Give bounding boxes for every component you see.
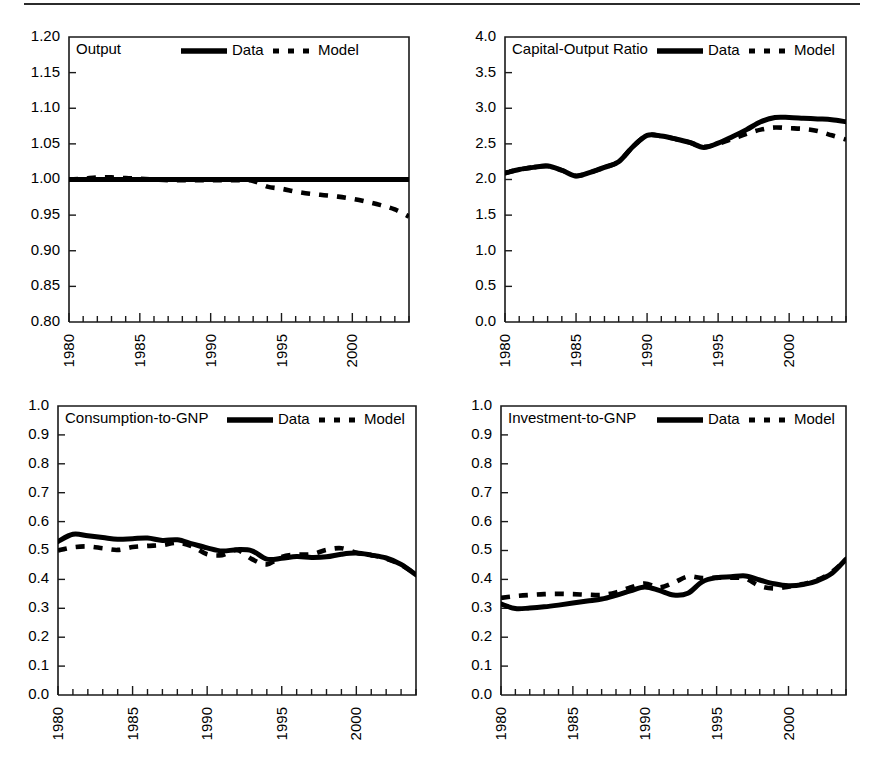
y-tick-label: 0.2 — [471, 627, 492, 644]
series-line-model — [501, 560, 846, 598]
y-tick-label: 0.2 — [28, 627, 49, 644]
x-tick-label: 2000 — [780, 707, 797, 740]
y-tick-label: 1.0 — [471, 396, 492, 413]
legend-label-data: Data — [708, 41, 740, 58]
x-tick-label: 1995 — [709, 334, 726, 367]
panel-title: Consumption-to-GNP — [65, 409, 208, 426]
y-tick-label: 0.3 — [28, 598, 49, 615]
x-tick-label: 1980 — [496, 334, 513, 367]
y-tick-label: 1.20 — [31, 27, 60, 44]
y-tick-label: 0.4 — [471, 569, 492, 586]
y-tick-label: 0.1 — [28, 656, 49, 673]
series-line-model — [69, 177, 409, 216]
x-tick-label: 1985 — [567, 334, 584, 367]
y-tick-label: 0.3 — [471, 598, 492, 615]
y-tick-label: 0.80 — [31, 312, 60, 329]
plot-output: 0.800.850.900.951.001.051.101.151.201980… — [0, 22, 440, 382]
panel-title: Output — [76, 40, 122, 57]
y-tick-label: 4.0 — [475, 27, 496, 44]
y-tick-label: 0.90 — [31, 241, 60, 258]
series-group — [58, 534, 416, 575]
series-group — [505, 117, 846, 176]
y-tick-label: 1.5 — [475, 205, 496, 222]
series-line-data — [501, 559, 846, 609]
panel-output: 0.800.850.900.951.001.051.101.151.201980… — [0, 22, 440, 382]
y-tick-label: 0.85 — [31, 276, 60, 293]
x-tick-label: 1995 — [273, 707, 290, 740]
x-tick-label: 1990 — [198, 707, 215, 740]
legend-label-data: Data — [232, 41, 264, 58]
plot-investment-to-gnp: 0.00.10.20.30.40.50.60.70.80.91.01980198… — [440, 392, 881, 768]
y-tick-label: 0.8 — [471, 454, 492, 471]
y-tick-label: 0.1 — [471, 656, 492, 673]
y-tick-label: 3.0 — [475, 98, 496, 115]
x-tick-label: 1990 — [202, 334, 219, 367]
legend-label-data: Data — [278, 410, 310, 427]
x-tick-label: 2000 — [780, 334, 797, 367]
figure-root: 0.800.850.900.951.001.051.101.151.201980… — [0, 0, 881, 768]
plot-frame — [505, 37, 846, 322]
x-tick-label: 1995 — [273, 334, 290, 367]
legend-label-model: Model — [318, 41, 359, 58]
panel-consumption-to-gnp: 0.00.10.20.30.40.50.60.70.80.91.01980198… — [0, 392, 440, 768]
y-tick-label: 1.10 — [31, 98, 60, 115]
x-tick-label: 2000 — [347, 707, 364, 740]
panel-investment-to-gnp: 0.00.10.20.30.40.50.60.70.80.91.01980198… — [440, 392, 881, 768]
legend-label-model: Model — [364, 410, 405, 427]
y-tick-label: 0.0 — [28, 685, 49, 702]
series-group — [69, 177, 409, 216]
y-tick-label: 0.0 — [471, 685, 492, 702]
y-tick-label: 2.5 — [475, 134, 496, 151]
header-rule — [24, 3, 860, 5]
y-tick-label: 0.9 — [28, 425, 49, 442]
x-tick-label: 1980 — [60, 334, 77, 367]
plot-frame — [501, 406, 846, 695]
panel-capital-output-ratio: 0.00.51.01.52.02.53.03.54.01980198519901… — [440, 22, 881, 382]
y-tick-label: 0.0 — [475, 312, 496, 329]
y-tick-label: 2.0 — [475, 169, 496, 186]
y-tick-label: 1.00 — [31, 169, 60, 186]
plot-consumption-to-gnp: 0.00.10.20.30.40.50.60.70.80.91.01980198… — [0, 392, 440, 768]
panel-title: Investment-to-GNP — [508, 409, 636, 426]
y-tick-label: 0.6 — [28, 512, 49, 529]
x-tick-label: 1995 — [708, 707, 725, 740]
y-tick-label: 0.8 — [28, 454, 49, 471]
x-tick-label: 1985 — [564, 707, 581, 740]
y-tick-label: 0.7 — [28, 483, 49, 500]
y-tick-label: 0.9 — [471, 425, 492, 442]
x-tick-label: 1980 — [49, 707, 66, 740]
y-tick-label: 0.4 — [28, 569, 49, 586]
y-tick-label: 0.5 — [28, 540, 49, 557]
x-tick-label: 1980 — [492, 707, 509, 740]
panel-title: Capital-Output Ratio — [512, 40, 648, 57]
series-group — [501, 559, 846, 609]
y-tick-label: 3.5 — [475, 63, 496, 80]
legend-label-model: Model — [794, 41, 835, 58]
y-tick-label: 0.6 — [471, 512, 492, 529]
legend-label-model: Model — [794, 410, 835, 427]
x-tick-label: 1985 — [124, 707, 141, 740]
series-line-data — [505, 117, 846, 176]
x-tick-label: 1990 — [636, 707, 653, 740]
y-tick-label: 1.0 — [475, 241, 496, 258]
y-tick-label: 0.5 — [475, 276, 496, 293]
series-line-data — [58, 534, 416, 575]
y-tick-label: 1.0 — [28, 396, 49, 413]
y-tick-label: 0.5 — [471, 540, 492, 557]
plot-capital-output-ratio: 0.00.51.01.52.02.53.03.54.01980198519901… — [440, 22, 881, 382]
y-tick-label: 1.05 — [31, 134, 60, 151]
y-tick-label: 0.7 — [471, 483, 492, 500]
x-tick-label: 1985 — [131, 334, 148, 367]
y-tick-label: 1.15 — [31, 63, 60, 80]
y-tick-label: 0.95 — [31, 205, 60, 222]
x-tick-label: 1990 — [638, 334, 655, 367]
x-tick-label: 2000 — [343, 334, 360, 367]
legend-label-data: Data — [708, 410, 740, 427]
